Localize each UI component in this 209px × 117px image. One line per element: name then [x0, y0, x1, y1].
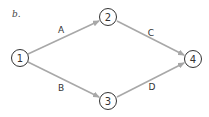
node-4: 4	[185, 51, 202, 68]
edge-label-b: B	[58, 83, 64, 93]
edges	[28, 21, 184, 97]
node-label: 2	[105, 12, 111, 23]
edge-label-d: D	[149, 82, 156, 92]
network-diagram: b. A B C D 1 2 3 4	[0, 0, 209, 117]
edge-label-c: C	[148, 28, 154, 38]
edge-c	[117, 21, 184, 55]
node-3: 3	[100, 93, 117, 110]
panel-label: b.	[12, 9, 21, 19]
node-label: 3	[105, 96, 111, 107]
node-label: 1	[17, 53, 23, 64]
node-2: 2	[100, 9, 117, 26]
node-1: 1	[12, 50, 29, 67]
edge-label-a: A	[58, 25, 65, 35]
node-label: 4	[190, 54, 196, 65]
edge-labels: A B C D	[58, 25, 156, 93]
